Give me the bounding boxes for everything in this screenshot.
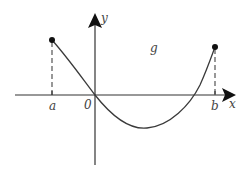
- y-axis-label: y: [100, 11, 108, 25]
- endpoint-a-dot: [49, 37, 55, 43]
- endpoint-b-dot: [212, 44, 218, 50]
- b-label: b: [211, 99, 219, 113]
- a-label: a: [49, 99, 56, 113]
- function-label: g: [150, 41, 158, 55]
- function-graph: y g a 0 b x: [0, 0, 246, 176]
- origin-label: 0: [84, 98, 92, 112]
- x-axis-label: x: [229, 97, 236, 111]
- curve-g: [52, 40, 215, 128]
